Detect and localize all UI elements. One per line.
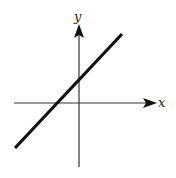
y-axis-label: y — [73, 9, 82, 24]
graph: y x — [0, 0, 176, 178]
x-axis-label: x — [158, 95, 166, 110]
plot-line — [15, 34, 122, 148]
